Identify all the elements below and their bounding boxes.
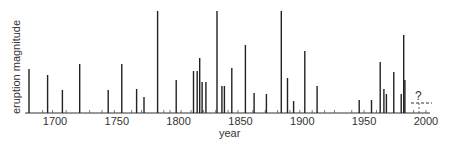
eruption-bar [201, 82, 202, 113]
eruption-bar [197, 71, 198, 113]
eruption-bar [28, 69, 29, 113]
eruption-bar [359, 100, 360, 113]
eruption-bar [281, 11, 282, 113]
x-axis-label: year [219, 127, 240, 139]
eruption-bar [245, 45, 246, 113]
x-tick-label: 1850 [228, 115, 252, 127]
eruption-bar [62, 90, 63, 113]
eruption-bar [403, 35, 404, 113]
eruption-bar [221, 86, 222, 113]
x-tick-label: 1750 [105, 115, 129, 127]
eruption-bar [404, 80, 405, 113]
eruption-bar [157, 11, 158, 113]
eruption-bar [253, 93, 254, 113]
x-tick-label: 1800 [166, 115, 190, 127]
eruption-bar [176, 80, 177, 113]
eruption-bar [108, 90, 109, 113]
eruption-bar [393, 72, 394, 113]
bars [28, 11, 405, 113]
eruption-bar [316, 86, 317, 113]
eruption-bar [143, 97, 144, 113]
x-tick-label: 1700 [43, 115, 67, 127]
eruption-bar [121, 64, 122, 113]
eruption-bar [79, 64, 80, 113]
eruption-bar [371, 100, 372, 113]
eruption-bar [47, 75, 48, 113]
x-tick-label: 1900 [290, 115, 314, 127]
eruption-bar [216, 11, 217, 113]
eruption-bar [205, 82, 206, 113]
eruption-bar [304, 51, 305, 113]
eruption-magnitude-chart [0, 0, 454, 146]
x-tick-label: 2000 [414, 115, 438, 127]
y-axis-label: eruption magnitude [10, 12, 24, 122]
eruption-bar [224, 86, 225, 113]
x-tick-label: 1950 [352, 115, 376, 127]
eruption-bar [266, 94, 267, 113]
eruption-bar [199, 58, 200, 113]
eruption-bar [401, 94, 402, 113]
eruption-bar [380, 62, 381, 113]
eruption-bar [386, 94, 387, 113]
eruption-bar [383, 89, 384, 113]
question-mark-annotation: ? [415, 89, 422, 103]
unknown-future-annotation [411, 103, 432, 113]
eruption-bar [136, 89, 137, 113]
eruption-bar [231, 68, 232, 113]
eruption-bar [293, 101, 294, 113]
eruption-bar [287, 78, 288, 113]
eruption-bar [193, 71, 194, 113]
